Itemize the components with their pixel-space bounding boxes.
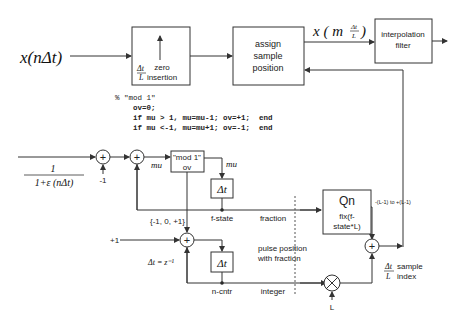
zero-insertion-block: Δt L zero insertion bbox=[132, 27, 190, 85]
delay-block-ncntr: Δt bbox=[211, 252, 233, 272]
qn-range-label: -(L-1) to +(L-1) bbox=[375, 199, 411, 205]
svg-text:index: index bbox=[397, 272, 416, 281]
multiplier-junction bbox=[324, 275, 340, 291]
svg-text:L: L bbox=[385, 272, 391, 281]
fraction-label: fraction bbox=[260, 214, 286, 223]
svg-text:+: + bbox=[184, 234, 190, 246]
summing-junction-3: + bbox=[180, 233, 194, 247]
summing-junction-1: + bbox=[96, 150, 110, 164]
svg-text:+: + bbox=[100, 151, 106, 163]
svg-text:): ) bbox=[360, 23, 366, 40]
svg-text:ov: ov bbox=[183, 163, 191, 172]
block-diagram: x(nΔt) Δt L zero insertion assign sample… bbox=[0, 0, 459, 327]
mu-label-2: mu bbox=[226, 159, 237, 169]
svg-text:% "mod 1": % "mod 1" bbox=[115, 94, 156, 102]
svg-text:+: + bbox=[369, 240, 375, 252]
pulse-position-label: pulse position bbox=[258, 244, 307, 253]
svg-text:Qn: Qn bbox=[339, 194, 355, 208]
svg-text:L: L bbox=[138, 73, 144, 82]
svg-text:state*L): state*L) bbox=[333, 222, 361, 231]
svg-text:x ( m: x ( m bbox=[312, 23, 343, 40]
ov-set-label: {-1, 0, +1} bbox=[150, 217, 185, 226]
sample-index-label: Δt L sample index bbox=[384, 262, 423, 281]
summing-junction-2: + bbox=[130, 150, 144, 164]
wire-mod-to-delay bbox=[204, 158, 222, 178]
n-cntr-label: n-cntr bbox=[212, 287, 233, 296]
svg-text:1+ε (nΔt): 1+ε (nΔt) bbox=[35, 177, 74, 189]
svg-text:interpolation: interpolation bbox=[381, 30, 425, 39]
L-label: L bbox=[330, 303, 335, 312]
svg-text:position: position bbox=[252, 63, 283, 73]
upsampled-signal-label: x ( m Δt L ) bbox=[312, 23, 366, 40]
assign-sample-position-block: assign sample position bbox=[233, 27, 304, 85]
svg-text:L: L bbox=[351, 32, 356, 40]
svg-text:sample: sample bbox=[397, 262, 423, 271]
delay-block-fstate: Δt bbox=[211, 179, 233, 198]
f-state-label: f-state bbox=[211, 214, 234, 223]
svg-text:Δt: Δt bbox=[216, 257, 227, 269]
svg-text:if mu <-1, mu=mu+1; ov=-1; en: if mu <-1, mu=mu+1; ov=-1; end bbox=[115, 124, 273, 132]
inverse-rate-label: 1 1+ε (nΔt) bbox=[24, 163, 84, 189]
svg-text:sample: sample bbox=[253, 51, 282, 61]
svg-text:if mu > 1, mu=mu-1; ov=+1; en: if mu > 1, mu=mu-1; ov=+1; end bbox=[115, 114, 273, 122]
svg-text:Δt: Δt bbox=[136, 64, 145, 73]
with-fraction-label: with fraction bbox=[257, 254, 301, 263]
svg-text:"mod 1": "mod 1" bbox=[173, 153, 201, 162]
svg-text:Δt: Δt bbox=[384, 262, 393, 271]
svg-text:assign: assign bbox=[255, 39, 281, 49]
svg-text:insertion: insertion bbox=[147, 73, 177, 82]
interpolation-filter-block: interpolation filter bbox=[375, 19, 432, 63]
wire-mult-to-sum4 bbox=[340, 254, 372, 283]
svg-text:ov=0;: ov=0; bbox=[115, 104, 156, 112]
input-signal-label: x(nΔt) bbox=[19, 48, 62, 67]
summing-junction-4: + bbox=[365, 239, 379, 253]
svg-text:1: 1 bbox=[51, 163, 56, 174]
svg-text:+: + bbox=[134, 151, 140, 163]
svg-text:x(nΔt): x(nΔt) bbox=[19, 48, 62, 67]
qn-quantizer-block: Qn fix(f- state*L) bbox=[323, 190, 371, 234]
minus-one-label: -1 bbox=[99, 176, 107, 185]
mod1-code-block: % "mod 1" ov=0; if mu > 1, mu=mu-1; ov=+… bbox=[115, 94, 273, 132]
svg-text:filter: filter bbox=[395, 41, 410, 50]
wire-sum3-to-delay bbox=[194, 240, 222, 251]
delay-equation-label: Δt = z⁻¹ bbox=[147, 258, 174, 267]
svg-text:zero: zero bbox=[154, 63, 170, 72]
svg-text:Δt: Δt bbox=[350, 23, 358, 31]
mu-label-1: mu bbox=[151, 160, 162, 170]
svg-text:Δt: Δt bbox=[216, 183, 227, 195]
mod1-block: "mod 1" ov bbox=[171, 151, 204, 172]
svg-text:fix(f-: fix(f- bbox=[339, 212, 355, 221]
integer-label: integer bbox=[261, 287, 286, 296]
plus-one-label: +1 bbox=[110, 236, 120, 245]
